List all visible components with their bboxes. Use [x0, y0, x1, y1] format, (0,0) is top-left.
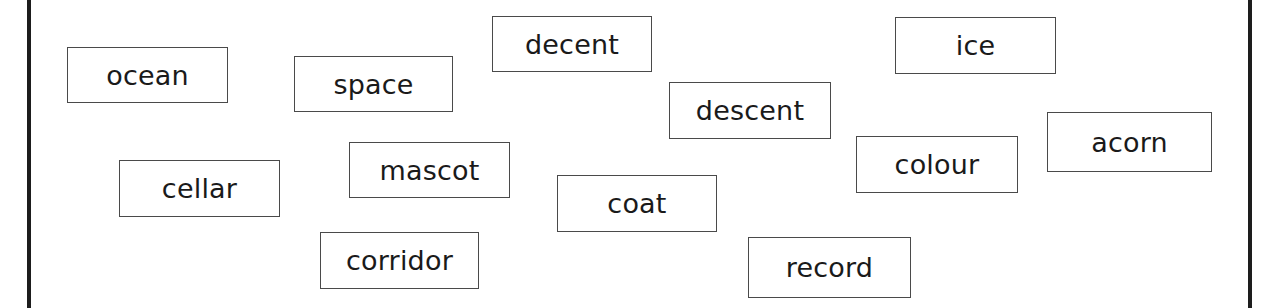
word-card-label: space [333, 71, 413, 98]
word-card-label: mascot [379, 157, 479, 184]
word-card-ice[interactable]: ice [895, 17, 1056, 74]
word-card-decent[interactable]: decent [492, 16, 652, 72]
word-card-label: corridor [346, 247, 453, 274]
word-card-cellar[interactable]: cellar [119, 160, 280, 217]
word-card-descent[interactable]: descent [669, 82, 831, 139]
word-card-corridor[interactable]: corridor [320, 232, 479, 289]
word-card-label: descent [696, 97, 804, 124]
word-card-label: colour [895, 151, 980, 178]
word-card-label: decent [525, 31, 619, 58]
right-margin-rule [1248, 0, 1252, 308]
word-card-label: acorn [1091, 129, 1168, 156]
worksheet-page: oceanspacedecenticedescentacorncolourcel… [0, 0, 1270, 308]
word-card-label: coat [607, 190, 666, 217]
word-card-space[interactable]: space [294, 56, 453, 112]
word-card-label: ocean [106, 62, 189, 89]
word-card-record[interactable]: record [748, 237, 911, 298]
left-margin-rule [27, 0, 31, 308]
word-card-colour[interactable]: colour [856, 136, 1018, 193]
word-card-label: ice [956, 32, 996, 59]
word-card-acorn[interactable]: acorn [1047, 112, 1212, 172]
word-card-mascot[interactable]: mascot [349, 142, 510, 198]
word-card-label: cellar [162, 175, 237, 202]
word-card-ocean[interactable]: ocean [67, 47, 228, 103]
word-card-label: record [786, 254, 873, 281]
word-card-coat[interactable]: coat [557, 175, 717, 232]
